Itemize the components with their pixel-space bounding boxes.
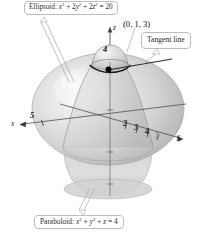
tangent-point-marker bbox=[106, 67, 112, 73]
tick-label-z-4: 4 bbox=[103, 46, 107, 54]
tick-label-y-2: 2 bbox=[123, 120, 127, 128]
callout-tangent-line: Tangent line bbox=[141, 32, 191, 49]
tick-label-x-5: 5 bbox=[30, 112, 34, 120]
axis-x-label: x bbox=[11, 120, 14, 128]
callout-paraboloid: Paraboloid: x2 + y2 + z = 4 bbox=[34, 215, 124, 229]
axis-z-label: z bbox=[113, 24, 116, 32]
callout-ellipsoid-text: Ellipsoid: x2 + 2y2 + 2z2 = 20 bbox=[29, 4, 113, 11]
callout-paraboloid-text: Paraboloid: x2 + y2 + z = 4 bbox=[40, 218, 118, 225]
figure-canvas: Ellipsoid: x2 + 2y2 + 2z2 = 20 Tangent l… bbox=[0, 0, 216, 234]
axis-y-label: y bbox=[177, 133, 180, 141]
tick-label-y-4: 4 bbox=[145, 128, 149, 136]
callout-tangent-line-text: Tangent line bbox=[147, 36, 185, 44]
callout-ellipsoid: Ellipsoid: x2 + 2y2 + 2z2 = 20 bbox=[24, 1, 118, 15]
tick-label-y-3: 3 bbox=[134, 124, 138, 132]
point-label: (0, 1, 3) bbox=[123, 20, 150, 29]
tick-label-y-5: 5 bbox=[155, 132, 159, 140]
